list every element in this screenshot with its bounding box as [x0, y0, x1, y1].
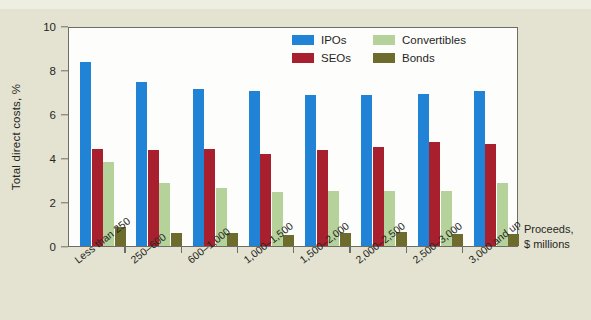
legend-item-bonds: Bonds: [373, 52, 466, 64]
bar-seos: [373, 147, 384, 246]
bar-ipos: [474, 91, 485, 246]
y-axis-tick-mark: [61, 70, 68, 71]
y-axis-tick-mark: [61, 26, 68, 27]
bar-ipos: [193, 89, 204, 246]
legend-item-ipos: IPOs: [292, 34, 351, 46]
bar-ipos: [80, 62, 91, 246]
legend-swatch-bonds: [373, 53, 395, 63]
bar-seos: [204, 149, 215, 246]
bar-group: [182, 28, 238, 246]
legend-item-convertibles: Convertibles: [373, 34, 466, 46]
y-axis-tick-mark: [61, 114, 68, 115]
legend-label-bonds: Bonds: [402, 52, 435, 64]
y-axis-tick-label: 10: [43, 21, 56, 33]
bar-ipos: [361, 95, 372, 246]
legend-swatch-seos: [292, 53, 314, 63]
legend-label-ipos: IPOs: [321, 34, 347, 46]
x-axis-tick-mark: [124, 247, 125, 253]
chart-legend: IPOsConvertiblesSEOsBonds: [292, 34, 466, 64]
bar-ipos: [249, 91, 260, 246]
x-axis-tick-mark: [181, 247, 182, 253]
x-axis-tick-mark: [349, 247, 350, 253]
proceeds-axis-caption: Proceeds, $ millions: [524, 222, 574, 252]
legend-label-seos: SEOs: [321, 52, 351, 64]
bar-ipos: [136, 82, 147, 246]
proceeds-caption-line2: $ millions: [524, 237, 574, 252]
bar-group: [69, 28, 125, 246]
bar-seos: [317, 150, 328, 246]
x-axis-tick-mark: [293, 247, 294, 253]
bar-group: [463, 28, 519, 246]
bar-seos: [92, 149, 103, 246]
grouped-bar-chart: Total direct costs, % 0246810 Less than …: [0, 0, 591, 320]
legend-label-convertibles: Convertibles: [402, 34, 466, 46]
proceeds-caption-line1: Proceeds,: [524, 222, 574, 237]
legend-swatch-ipos: [292, 35, 314, 45]
legend-swatch-convertibles: [373, 35, 395, 45]
y-axis-tick-label: 2: [50, 197, 56, 209]
y-axis-tick-label: 4: [50, 153, 56, 165]
x-axis-tick-mark: [462, 247, 463, 253]
y-axis-tick-label: 6: [50, 109, 56, 121]
y-axis-title: Total direct costs, %: [10, 84, 22, 190]
y-axis-tick-mark: [61, 158, 68, 159]
bar-seos: [485, 144, 496, 246]
bar-ipos: [418, 94, 429, 246]
y-axis-tick-mark: [61, 246, 68, 247]
bar-group: [238, 28, 294, 246]
x-axis-tick-mark: [237, 247, 238, 253]
bar-bonds: [171, 233, 182, 246]
y-axis-tick-mark: [61, 202, 68, 203]
y-axis-tick-label: 0: [50, 241, 56, 253]
bar-seos: [429, 142, 440, 247]
y-axis-tick-label: 8: [50, 65, 56, 77]
bar-group: [125, 28, 181, 246]
legend-item-seos: SEOs: [292, 52, 351, 64]
x-axis-tick-mark: [406, 247, 407, 253]
bar-ipos: [305, 95, 316, 246]
